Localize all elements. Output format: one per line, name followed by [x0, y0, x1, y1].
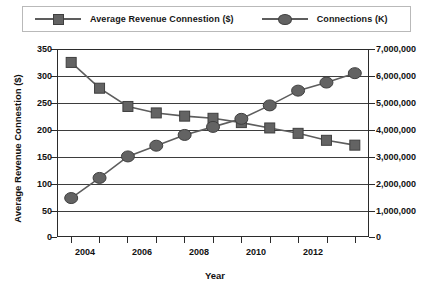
legend-label-average-revenue: Average Revenue Connestion ($): [90, 14, 234, 24]
data-series-layer: [57, 49, 369, 237]
ytick-mark-right-2m: [369, 184, 375, 185]
data-point[interactable]: [263, 100, 276, 111]
xtick-mark-2009: [241, 237, 242, 243]
legend-label-connections: Connections (K): [317, 14, 388, 24]
xtick-mark-2006: [156, 237, 157, 243]
data-point[interactable]: [93, 172, 106, 183]
ytick-mark-right-5m: [369, 103, 375, 104]
xtick-mark-2005: [127, 237, 128, 243]
data-point[interactable]: [320, 77, 333, 88]
data-point[interactable]: [348, 68, 361, 79]
data-point[interactable]: [293, 128, 303, 138]
xtick-label-2006: 2006: [120, 247, 164, 257]
data-point[interactable]: [66, 57, 76, 67]
y-axis-title-left: Average Revenue Connestion ($): [12, 59, 23, 239]
data-point[interactable]: [292, 85, 305, 96]
ytick-label-right-4000000: 4,000,000: [376, 126, 436, 135]
xtick-label-2012: 2012: [291, 247, 335, 257]
x-axis-title: Year: [0, 270, 430, 281]
ytick-mark-right-4m: [369, 130, 375, 131]
xtick-label-2004: 2004: [63, 247, 107, 257]
ytick-mark-right-3m: [369, 157, 375, 158]
data-point[interactable]: [350, 140, 360, 150]
ytick-mark-right-6m: [369, 76, 375, 77]
xtick-mark-2012: [327, 237, 328, 243]
ytick-label-right-5000000: 5,000,000: [376, 99, 436, 108]
series-line-connections: [71, 73, 355, 198]
xtick-mark-2013: [355, 237, 356, 243]
ytick-label-left-350: 350: [10, 45, 52, 54]
ytick-label-right-1000000: 1,000,000: [376, 207, 436, 216]
data-point[interactable]: [178, 129, 191, 140]
data-point[interactable]: [123, 101, 133, 111]
ytick-label-right-3000000: 3,000,000: [376, 153, 436, 162]
xtick-mark-2008: [213, 237, 214, 243]
square-marker-icon: [35, 12, 81, 26]
ytick-label-right-2000000: 2,000,000: [376, 180, 436, 189]
ytick-label-right-0: 0: [376, 233, 436, 242]
data-point[interactable]: [235, 113, 248, 124]
data-point[interactable]: [207, 121, 220, 132]
data-point[interactable]: [151, 108, 161, 118]
legend-item-average-revenue[interactable]: Average Revenue Connestion ($): [35, 7, 234, 31]
data-point[interactable]: [265, 123, 275, 133]
xtick-mark-2004: [99, 237, 100, 243]
data-point[interactable]: [95, 83, 105, 93]
chart-legend: Average Revenue Connestion ($) Connectio…: [22, 6, 411, 32]
ytick-label-right-7000000: 7,000,000: [376, 45, 436, 54]
ytick-mark-right-0: [369, 237, 375, 238]
xtick-mark-2003: [71, 237, 72, 243]
data-point[interactable]: [121, 151, 134, 162]
ytick-mark-right-7m: [369, 49, 375, 50]
circle-marker-icon: [262, 12, 308, 26]
ytick-mark-right-1m: [369, 211, 375, 212]
data-point[interactable]: [321, 135, 331, 145]
ytick-label-right-6000000: 6,000,000: [376, 72, 436, 81]
data-point[interactable]: [150, 140, 163, 151]
xtick-mark-2010: [270, 237, 271, 243]
xtick-mark-2011: [298, 237, 299, 243]
xtick-mark-2007: [184, 237, 185, 243]
xtick-label-2008: 2008: [177, 247, 221, 257]
xtick-label-2010: 2010: [234, 247, 278, 257]
revenue-connections-chart: Average Revenue Connestion ($) Connectio…: [0, 0, 440, 295]
data-point[interactable]: [180, 111, 190, 121]
legend-item-connections[interactable]: Connections (K): [262, 7, 388, 31]
data-point[interactable]: [65, 193, 78, 204]
